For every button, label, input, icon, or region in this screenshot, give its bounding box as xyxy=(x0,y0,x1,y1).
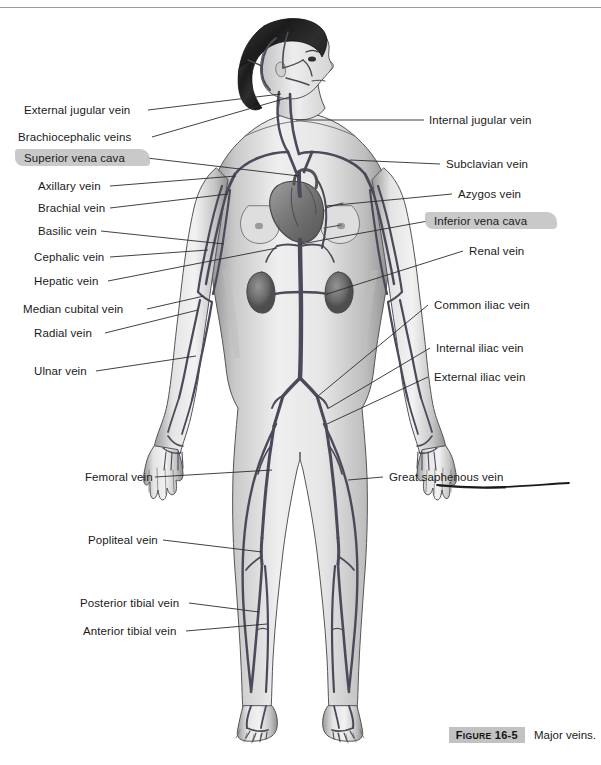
label-internal-iliac-vein: Internal iliac vein xyxy=(436,342,524,355)
label-median-cubital-vein: Median cubital vein xyxy=(23,303,123,316)
label-renal-vein: Renal vein xyxy=(469,245,524,258)
leader-internal-iliac-vein xyxy=(329,348,430,408)
leader-great-saphenous-vein xyxy=(348,477,383,480)
label-axillary-vein: Axillary vein xyxy=(38,180,101,193)
label-subclavian-vein: Subclavian vein xyxy=(446,158,528,171)
label-inferior-vena-cava: Inferior vena cava xyxy=(434,215,527,228)
label-external-iliac-vein: External iliac vein xyxy=(434,371,525,384)
leader-popliteal-vein xyxy=(163,540,262,552)
label-basilic-vein: Basilic vein xyxy=(38,225,97,238)
leader-brachiocephalic-veins xyxy=(152,97,290,137)
leader-axillary-vein xyxy=(110,176,236,186)
leader-azygos-vein xyxy=(326,194,452,206)
figure-page: External jugular vein Brachiocephalic ve… xyxy=(0,0,601,765)
label-popliteal-vein: Popliteal vein xyxy=(88,534,158,547)
label-superior-vena-cava: Superior vena cava xyxy=(24,152,125,165)
leader-inferior-vena-cava xyxy=(301,221,428,244)
label-hepatic-vein: Hepatic vein xyxy=(34,275,98,288)
leader-posterior-tibial-vein xyxy=(189,603,259,612)
label-cephalic-vein: Cephalic vein xyxy=(34,251,104,264)
label-brachial-vein: Brachial vein xyxy=(38,202,105,215)
label-femoral-vein: Femoral vein xyxy=(85,471,153,484)
leader-superior-vena-cava xyxy=(147,158,299,176)
leader-brachial-vein xyxy=(110,194,228,208)
figure-caption: FIGURE 16-5 Major veins. xyxy=(400,726,596,744)
leader-subclavian-vein xyxy=(350,160,440,164)
label-anterior-tibial-vein: Anterior tibial vein xyxy=(83,625,176,638)
figure-number-band: FIGURE 16-5 xyxy=(449,727,525,743)
label-common-iliac-vein: Common iliac vein xyxy=(434,299,530,312)
label-radial-vein: Radial vein xyxy=(34,327,92,340)
great-saphenous-vein-underline xyxy=(436,481,570,491)
leader-median-cubital-vein xyxy=(147,296,204,309)
label-posterior-tibial-vein: Posterior tibial vein xyxy=(80,597,179,610)
figure-caption-text: Major veins. xyxy=(534,729,596,741)
label-ulnar-vein: Ulnar vein xyxy=(34,365,87,378)
label-brachiocephalic-veins: Brachiocephalic veins xyxy=(18,131,131,144)
label-external-jugular-vein: External jugular vein xyxy=(24,104,130,117)
leader-external-jugular-vein xyxy=(148,94,281,110)
leader-cephalic-vein xyxy=(110,250,208,257)
leader-femoral-vein xyxy=(155,470,272,477)
leader-renal-vein xyxy=(327,251,463,294)
leader-ulnar-vein xyxy=(96,356,196,371)
label-internal-jugular-vein: Internal jugular vein xyxy=(429,114,531,127)
leader-anterior-tibial-vein xyxy=(186,624,267,631)
leader-hepatic-vein xyxy=(108,248,277,281)
leader-basilic-vein xyxy=(101,231,224,244)
label-azygos-vein: Azygos vein xyxy=(458,188,521,201)
